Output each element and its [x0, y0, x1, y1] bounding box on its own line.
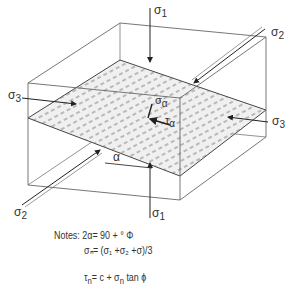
sigma2-top-label: σ2: [271, 26, 284, 41]
sigma1-top-label: σ1: [154, 4, 167, 19]
alpha-label: α: [113, 151, 120, 163]
sigma2-bottom-arrow: [22, 150, 100, 205]
note-alpha-equation: Notes: 2α= 90 + ° Φ: [54, 230, 133, 241]
tau-alpha-label: τα: [165, 115, 175, 129]
sigma1-bottom-label: σ1: [152, 207, 165, 222]
sigma2-top-arrow: [194, 29, 265, 83]
sigma-alpha-label: σα: [155, 95, 168, 109]
note-mean-stress-equation: σₙ= (σ₁ +σ₂ +σ)/3: [84, 245, 152, 256]
sigma3-left-label: σ3: [8, 89, 21, 104]
sigma2-bottom-label: σ2: [14, 206, 27, 221]
sigma3-right-label: σ3: [272, 115, 285, 130]
note-mohr-coulomb-equation: τn= c + σn tan ϕ: [84, 272, 146, 286]
